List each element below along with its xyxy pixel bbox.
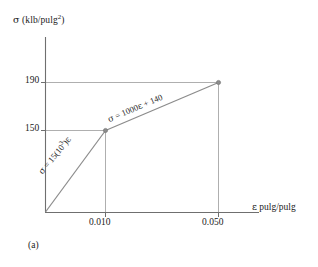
stress-strain-figure: σ (klb/pulg2) ε pulg/pulg 190 150 0.010 …	[0, 0, 318, 267]
plot-canvas	[0, 0, 318, 267]
data-point-ultimate	[216, 80, 220, 84]
curve-segment-elastic	[46, 131, 106, 213]
y-tick-label-190: 190	[25, 75, 39, 85]
y-axis-label: σ (klb/pulg2)	[13, 14, 65, 25]
y-tick-label-150: 150	[25, 123, 39, 133]
x-tick-label-0050: 0.050	[202, 217, 223, 227]
x-tick-label-0010: 0.010	[89, 217, 110, 227]
data-point-yield	[103, 128, 107, 132]
x-axis-label: ε pulg/pulg	[252, 201, 296, 212]
panel-caption: (a)	[28, 240, 39, 250]
